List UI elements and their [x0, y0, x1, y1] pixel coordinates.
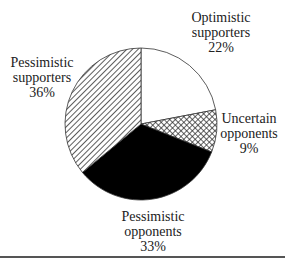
- label-value: 9%: [220, 141, 278, 156]
- label-line: Pessimistic: [121, 209, 184, 224]
- label-value: 33%: [121, 239, 184, 254]
- pie-chart: Optimistic supporters 22% Uncertain oppo…: [0, 0, 287, 264]
- label-value: 22%: [191, 40, 250, 55]
- label-line: supporters: [10, 70, 73, 85]
- label-uncertain-opponents: Uncertain opponents 9%: [220, 111, 278, 156]
- label-line: Optimistic: [191, 10, 250, 25]
- label-line: Uncertain: [220, 111, 278, 126]
- label-line: opponents: [121, 224, 184, 239]
- label-line: opponents: [220, 126, 278, 141]
- bottom-rule: [0, 256, 285, 258]
- label-line: Pessimistic: [10, 55, 73, 70]
- label-line: supporters: [191, 25, 250, 40]
- pie-slices: [65, 48, 217, 200]
- label-value: 36%: [10, 85, 73, 100]
- label-pessimistic-supporters: Pessimistic supporters 36%: [10, 55, 73, 100]
- label-optimistic-supporters: Optimistic supporters 22%: [191, 10, 250, 55]
- label-pessimistic-opponents: Pessimistic opponents 33%: [121, 209, 184, 254]
